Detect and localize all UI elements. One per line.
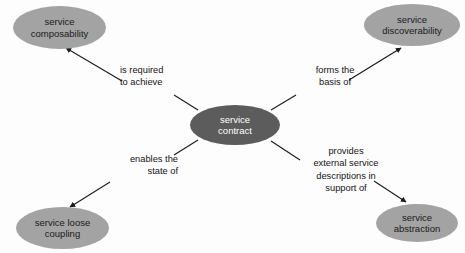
node-service-discoverability-label: service discoverability [378,14,446,36]
node-service-discoverability[interactable]: service discoverability [364,4,460,46]
diagram-canvas: service contract service composability s… [0,0,465,253]
node-service-loose-coupling[interactable]: service loose coupling [16,207,109,249]
node-service-contract-label: service contract [214,114,256,136]
edge-label-discoverability: forms the basis of [298,64,372,89]
edge-label-loose-coupling: enables the state of [98,153,178,178]
edge-label-abstraction: provides external service descriptions i… [294,145,398,194]
edge-label-composability: is required to achieve [120,64,200,89]
node-service-abstraction[interactable]: service abstraction [376,204,458,242]
node-service-loose-coupling-label: service loose coupling [31,217,94,239]
node-service-composability[interactable]: service composability [13,6,106,49]
node-service-abstraction-label: service abstraction [390,212,444,234]
node-service-composability-label: service composability [27,16,93,38]
node-service-contract[interactable]: service contract [190,105,280,145]
